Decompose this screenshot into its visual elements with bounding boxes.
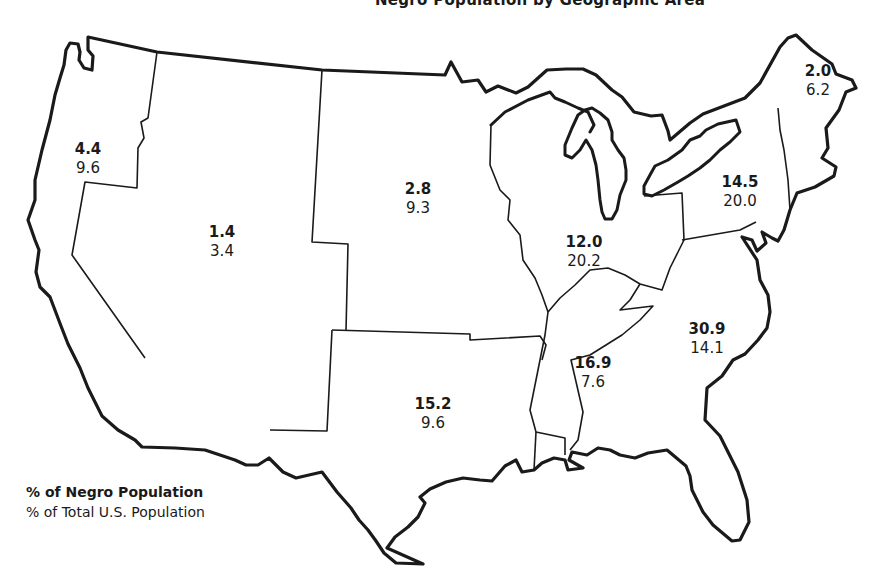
boundary-pnw-mountain	[72, 52, 157, 358]
total-pct: 20.0	[721, 192, 758, 211]
region-label-west-north-central: 2.8 9.3	[405, 180, 432, 218]
legend-negro-population: % of Negro Population	[26, 482, 205, 502]
total-pct: 7.6	[574, 373, 611, 392]
region-label-east-north-central: 12.0 20.2	[565, 233, 602, 271]
boundary-enc-east	[640, 193, 684, 290]
region-label-pacific-northwest: 4.4 9.6	[75, 140, 102, 178]
negro-pct: 16.9	[574, 354, 611, 373]
total-pct: 9.6	[414, 414, 451, 433]
legend-total-population: % of Total U.S. Population	[26, 502, 205, 522]
lake-michigan	[565, 108, 626, 219]
boundary-mountain-wsc	[270, 330, 332, 431]
negro-pct: 4.4	[75, 140, 102, 159]
lake-superior-shore	[491, 92, 594, 132]
negro-pct: 14.5	[721, 173, 758, 192]
total-pct: 9.3	[405, 199, 432, 218]
boundary-enc-esc	[548, 268, 640, 312]
boundary-wnc-enc	[490, 125, 548, 312]
total-pct: 14.1	[688, 339, 725, 358]
negro-pct: 12.0	[565, 233, 602, 252]
region-label-south-atlantic: 30.9 14.1	[688, 320, 725, 358]
boundary-mountain-wnc	[312, 70, 348, 331]
negro-pct: 15.2	[414, 395, 451, 414]
total-pct: 20.2	[565, 252, 602, 271]
total-pct: 3.4	[209, 242, 236, 261]
boundary-wnc-wsc	[332, 330, 546, 360]
negro-pct: 2.0	[805, 62, 832, 81]
negro-pct: 2.8	[405, 180, 432, 199]
negro-pct: 1.4	[209, 223, 236, 242]
map-legend: % of Negro Population % of Total U.S. Po…	[26, 482, 205, 522]
region-label-new-england: 2.0 6.2	[805, 62, 832, 100]
boundary-esc-wsc-south	[534, 432, 536, 470]
total-pct: 9.6	[75, 159, 102, 178]
boundary-ne-ma	[778, 108, 790, 210]
negro-pct: 30.9	[688, 320, 725, 339]
region-label-middle-atlantic: 14.5 20.0	[721, 173, 758, 211]
region-label-east-south-central: 16.9 7.6	[574, 354, 611, 392]
total-pct: 6.2	[805, 81, 832, 100]
region-label-mountain: 1.4 3.4	[209, 223, 236, 261]
region-label-west-south-central: 15.2 9.6	[414, 395, 451, 433]
